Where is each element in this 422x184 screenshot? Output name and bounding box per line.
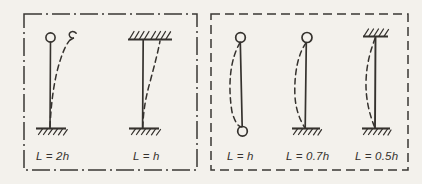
- cantilever-column-label: L = 2h: [36, 150, 69, 162]
- fixed-fixed-braced-column-label: L = 0.5h: [355, 150, 398, 162]
- deflected-free-end-node-icon: [69, 31, 76, 38]
- fixed-fixed-sway-column-label: L = h: [133, 150, 160, 162]
- pin-node-top-icon: [236, 33, 246, 43]
- pin-node-bottom-icon: [238, 127, 248, 137]
- fixed-top-hatching-icon: [364, 29, 389, 36]
- pin-node-top-icon: [302, 33, 312, 43]
- fixed-base-hatching-icon: [132, 129, 161, 135]
- pinned-fixed-column: L = 0.7h: [286, 33, 329, 163]
- free-end-node-icon: [46, 33, 55, 42]
- fixed-base-hatching-icon: [39, 129, 68, 135]
- pinned-fixed-column-label: L = 0.7h: [286, 150, 329, 162]
- fixed-base-hatching-icon: [294, 129, 322, 135]
- column-buckling-diagram: L = 2h L = h: [0, 0, 422, 184]
- cantilever-column: L = 2h: [36, 31, 76, 162]
- pinned-pinned-column: L = h: [227, 33, 254, 162]
- buckled-shape-curve: [143, 41, 160, 128]
- pinned-pinned-column-label: L = h: [227, 150, 254, 162]
- buckled-shape-curve: [50, 40, 71, 128]
- buckled-shape-curve: [295, 43, 306, 128]
- fixed-top-hatching-icon: [130, 32, 171, 40]
- buckled-shape-curve: [366, 38, 375, 128]
- fixed-fixed-sway-column: L = h: [128, 32, 172, 163]
- fixed-base-hatching-icon: [364, 129, 392, 135]
- fixed-fixed-braced-column: L = 0.5h: [355, 29, 398, 162]
